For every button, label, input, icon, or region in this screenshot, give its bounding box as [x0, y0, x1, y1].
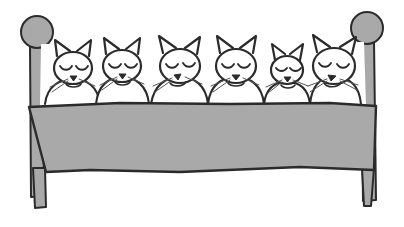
left-bed-leg-shape — [33, 168, 46, 208]
sleeping-cats-illustration — [0, 0, 404, 227]
left-bed-leg — [33, 168, 46, 208]
cat-3-head — [160, 49, 200, 83]
right-bed-leg-shape — [362, 168, 374, 206]
blanket — [29, 103, 376, 172]
right-bed-leg — [362, 168, 374, 206]
left-bedpost-finial-icon — [21, 16, 53, 48]
illustration-canvas — [0, 0, 404, 227]
